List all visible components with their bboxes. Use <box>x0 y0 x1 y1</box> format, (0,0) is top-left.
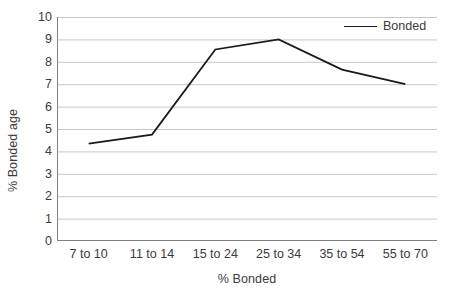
x-tick-label-1: 11 to 14 <box>120 247 183 269</box>
line-chart: % Bonded age % Bonded 012345678910 7 to … <box>0 0 458 301</box>
chart-legend: Bonded <box>344 19 426 33</box>
y-axis-title: % Bonded age <box>0 0 26 301</box>
legend-label-bonded: Bonded <box>383 19 426 33</box>
y-axis-tick-labels: 012345678910 <box>26 0 52 301</box>
plot-canvas <box>57 17 437 241</box>
y-tick-label-3: 3 <box>26 167 52 181</box>
legend-line-marker-bonded <box>344 26 377 27</box>
y-tick-label-0: 0 <box>26 234 52 248</box>
y-tick-label-6: 6 <box>26 100 52 114</box>
y-tick-label-8: 8 <box>26 55 52 69</box>
y-tick-label-2: 2 <box>26 189 52 203</box>
y-tick-label-1: 1 <box>26 212 52 226</box>
x-axis-title: % Bonded <box>57 272 437 286</box>
x-tick-label-2: 15 to 24 <box>184 247 247 269</box>
y-tick-label-10: 10 <box>26 10 52 24</box>
y-tick-label-7: 7 <box>26 77 52 91</box>
x-tick-label-0: 7 to 10 <box>57 247 120 269</box>
y-tick-label-9: 9 <box>26 32 52 46</box>
x-tick-label-4: 35 to 54 <box>310 247 373 269</box>
x-axis-tick-labels: 7 to 1011 to 1415 to 2425 to 3435 to 545… <box>57 247 437 269</box>
plot-area <box>57 17 437 241</box>
x-tick-label-3: 25 to 34 <box>247 247 310 269</box>
y-tick-label-5: 5 <box>26 122 52 136</box>
data-line-bonded <box>89 39 406 143</box>
y-tick-label-4: 4 <box>26 144 52 158</box>
x-tick-label-5: 55 to 70 <box>374 247 437 269</box>
